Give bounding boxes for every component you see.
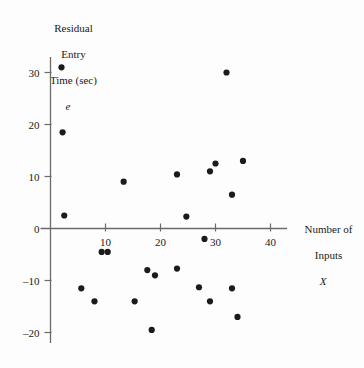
data-point [132, 298, 138, 304]
x-tick-label-20: 20 [155, 236, 167, 248]
axes-group [41, 57, 288, 343]
data-point [60, 129, 66, 135]
ticks-group [45, 73, 271, 333]
data-point [105, 249, 111, 255]
data-point [99, 249, 105, 255]
data-points-group [58, 64, 246, 333]
x-tick-label-10: 10 [100, 236, 112, 248]
data-point [229, 285, 235, 291]
y-tick-label-0: 0 [34, 223, 40, 235]
data-point [234, 314, 240, 320]
data-point [174, 171, 180, 177]
data-point [152, 272, 158, 278]
data-point [91, 298, 97, 304]
residual-scatter-figure: Residual Entry Time (sec) e Number of In… [0, 0, 364, 368]
data-point [207, 168, 213, 174]
data-point [240, 158, 246, 164]
data-point [149, 327, 155, 333]
scatter-plot-canvas: 3020100–10–2010203040 [0, 0, 364, 368]
tick-labels-group: 3020100–10–2010203040 [22, 67, 277, 339]
data-point [58, 64, 64, 70]
data-point [229, 192, 235, 198]
data-point [207, 298, 213, 304]
data-point [212, 160, 218, 166]
data-point [201, 236, 207, 242]
data-point [174, 265, 180, 271]
y-tick-label-20: 20 [29, 119, 41, 131]
data-point [121, 179, 127, 185]
x-tick-label-30: 30 [210, 236, 222, 248]
y-tick-label--10: –10 [22, 275, 40, 287]
x-tick-label-40: 40 [265, 236, 277, 248]
y-tick-label--20: –20 [22, 327, 40, 339]
data-point [61, 212, 67, 218]
data-point [196, 284, 202, 290]
data-point [78, 285, 84, 291]
data-point [183, 213, 189, 219]
data-point [223, 69, 229, 75]
y-tick-label-30: 30 [29, 67, 41, 79]
data-point [144, 267, 150, 273]
y-tick-label-10: 10 [29, 171, 41, 183]
